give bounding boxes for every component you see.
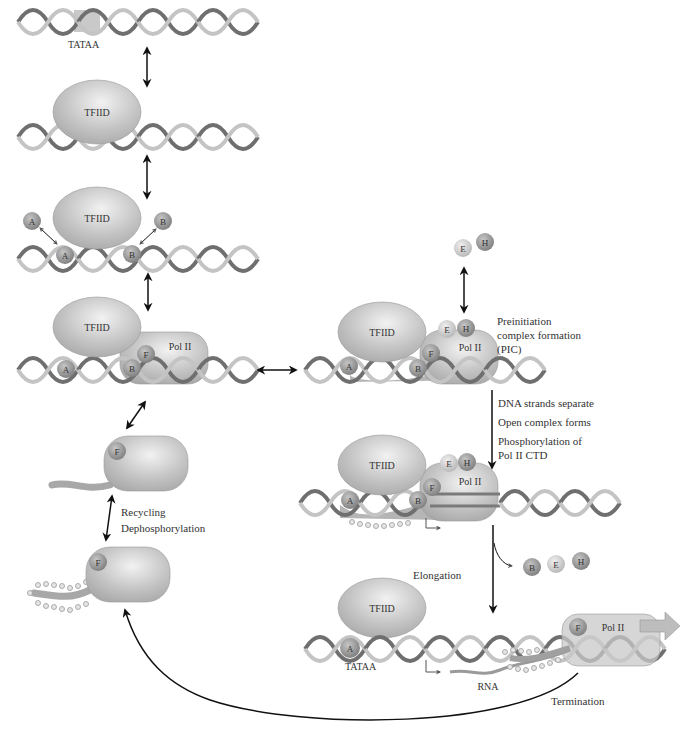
- factor-b-label: B: [129, 250, 135, 260]
- elongation-label: Elongation: [413, 568, 461, 582]
- dna-helix: [18, 125, 258, 149]
- tfiid-label: TFIID: [369, 327, 395, 338]
- pic-line-1: Preinitiation: [497, 314, 581, 328]
- factor-a-label: A: [346, 362, 353, 372]
- factor-b-label: B: [415, 364, 421, 374]
- factor-e-label: E: [446, 459, 452, 469]
- dephosphorylation-label: Dephosphorylation: [121, 521, 205, 535]
- release-arrow: [494, 543, 512, 566]
- tfiia-tfiib-row: TFIID A A B B: [18, 187, 258, 271]
- dna-helix: [18, 10, 258, 34]
- pol2-label: Pol II: [169, 341, 192, 352]
- factor-e-label: E: [444, 325, 450, 335]
- dna-separate-label: DNA strands separate: [498, 396, 594, 410]
- factor-b-label: B: [415, 496, 421, 506]
- tfiid-label: TFIID: [369, 460, 395, 471]
- tfiid-label: TFIID: [369, 603, 395, 614]
- rna-label: RNA: [477, 681, 499, 692]
- tataa-label: TATAA: [68, 39, 100, 50]
- factor-b-label: B: [129, 364, 135, 374]
- ctd-tail: [34, 590, 90, 596]
- factor-f-label: F: [575, 623, 580, 633]
- transcription-diagram: TATAA TFIID TFIID A A B B Pol II: [0, 0, 688, 737]
- exchange-arrow: [40, 228, 57, 244]
- pol2-label: Pol II: [459, 342, 482, 353]
- factor-e-label: E: [460, 244, 466, 254]
- released-factors: B E H: [523, 552, 590, 576]
- tfiid-binding-row: TFIID: [18, 80, 258, 149]
- tataa-label: TATAA: [345, 661, 377, 672]
- factor-a-label: A: [62, 251, 69, 261]
- factor-a-label: A: [63, 365, 70, 375]
- pol2-free-phosphorylated: F: [28, 547, 171, 613]
- factor-f-label: F: [143, 350, 148, 360]
- pol2-label: Pol II: [602, 622, 625, 633]
- exchange-arrow: [140, 229, 156, 244]
- pic-annotation: Preinitiation complex formation (PIC): [497, 314, 581, 356]
- factor-a-label: A: [347, 644, 354, 654]
- factor-h-label: H: [482, 238, 489, 248]
- phospho-line-1: Phosphorylation of: [498, 434, 582, 448]
- factor-h-label: H: [578, 557, 585, 567]
- factor-f-label: F: [428, 349, 433, 359]
- dna-tataa-row: TATAA: [18, 10, 258, 50]
- factor-h-label: H: [464, 458, 471, 468]
- equilibrium-arrow: [127, 402, 145, 428]
- pol2-recruitment-row: Pol II TFIID A B F: [18, 297, 258, 384]
- factor-a-label: A: [29, 217, 36, 227]
- factor-e-label: E: [553, 560, 559, 570]
- ctd-tail: [52, 484, 110, 488]
- factor-f-label: F: [114, 447, 119, 457]
- phospho-line-2: Pol II CTD: [498, 448, 582, 462]
- factors-e-h-free: E H: [454, 233, 494, 257]
- pol2-free-unphosphorylated: F: [52, 436, 188, 491]
- factor-f-label: F: [429, 483, 434, 493]
- phosphate-groups: [350, 520, 411, 529]
- factor-b-label: B: [529, 563, 535, 573]
- open-complex-label: Open complex forms: [498, 415, 591, 429]
- factor-f-label: F: [95, 558, 100, 568]
- factor-b-label: B: [160, 217, 166, 227]
- pol2-label: Pol II: [459, 476, 482, 487]
- factor-h-label: H: [463, 324, 470, 334]
- termination-label: Termination: [551, 694, 605, 708]
- pic-line-2: complex formation: [497, 328, 581, 342]
- phosphorylation-annotation: Phosphorylation of Pol II CTD: [498, 434, 582, 462]
- recycling-label: Recycling: [121, 505, 166, 519]
- equilibrium-arrow: [106, 496, 112, 540]
- tfiid-label: TFIID: [84, 322, 110, 333]
- tfiid-label: TFIID: [84, 213, 110, 224]
- pic-line-3: (PIC): [497, 342, 581, 356]
- tfiid-label: TFIID: [84, 107, 110, 118]
- factor-a-label: A: [347, 496, 354, 506]
